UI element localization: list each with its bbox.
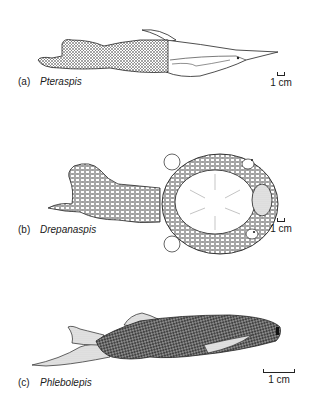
- panel-a: (a)Pteraspis 1 cm: [0, 0, 316, 110]
- panel-c: (c)Phlebolepis 1 cm: [0, 265, 316, 403]
- scale-bar-line: [263, 369, 295, 373]
- scale-label: 1 cm: [270, 223, 292, 234]
- panel-letter: (c): [18, 377, 40, 389]
- scale-bar-line: [277, 72, 285, 76]
- species-name: Phlebolepis: [40, 377, 92, 388]
- scale-bar-c: 1 cm: [262, 369, 296, 385]
- panel-letter: (b): [18, 224, 40, 236]
- species-name: Pteraspis: [40, 76, 82, 87]
- panel-a-caption: (a)Pteraspis: [18, 76, 82, 88]
- panel-letter: (a): [18, 76, 40, 88]
- panel-b-caption: (b)Drepanaspis: [18, 224, 96, 236]
- panel-b: (b)Drepanaspis 1 cm: [0, 130, 316, 260]
- scale-bar-b: 1 cm: [268, 218, 294, 234]
- scale-label: 1 cm: [270, 77, 292, 88]
- drepanaspis-illustration: [0, 130, 316, 260]
- species-name: Drepanaspis: [40, 224, 96, 235]
- scale-bar-a: 1 cm: [268, 72, 294, 88]
- panel-c-caption: (c)Phlebolepis: [18, 377, 92, 389]
- pteraspis-illustration: [0, 0, 316, 110]
- scale-bar-line: [277, 218, 285, 222]
- scale-label: 1 cm: [268, 374, 290, 385]
